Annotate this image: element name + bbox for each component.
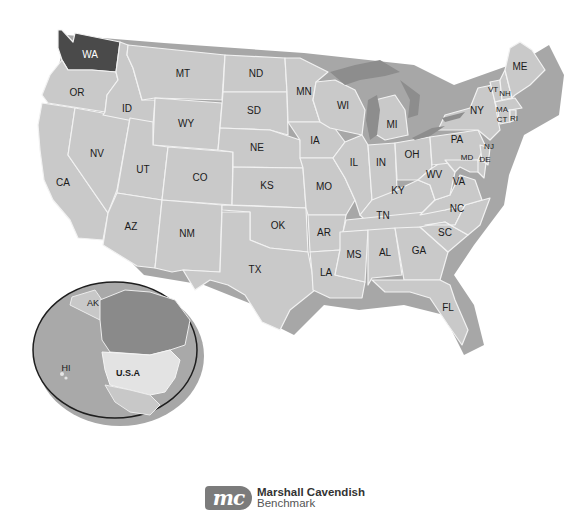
label-ms: MS	[347, 249, 362, 260]
publisher-logo: mc Marshall Cavendish Benchmark	[205, 484, 365, 512]
label-de: DE	[479, 155, 490, 164]
label-wi: WI	[337, 100, 349, 111]
label-ia: IA	[310, 135, 320, 146]
label-vt: VT	[488, 85, 498, 94]
label-nd: ND	[249, 68, 263, 79]
label-ne: NE	[250, 142, 264, 153]
label-wa: WA	[82, 49, 98, 60]
label-wv: WV	[426, 169, 442, 180]
label-sc: SC	[438, 227, 452, 238]
label-ct: CT	[497, 115, 508, 124]
label-ga: GA	[412, 245, 427, 256]
label-mn: MN	[296, 86, 312, 97]
label-me: ME	[513, 61, 528, 72]
globe-hawaii-island	[64, 376, 67, 379]
label-ny: NY	[470, 105, 484, 116]
label-il: IL	[350, 157, 359, 168]
label-tx: TX	[249, 264, 262, 275]
label-nc: NC	[450, 203, 464, 214]
label-ri: RI	[510, 114, 518, 123]
label-tn: TN	[376, 210, 389, 221]
label-mi: MI	[386, 119, 397, 130]
inset-globe: AK HI U.S.A	[33, 282, 204, 426]
label-sd: SD	[247, 105, 261, 116]
label-va: VA	[453, 176, 466, 187]
label-mt: MT	[176, 68, 190, 79]
label-ar: AR	[317, 227, 331, 238]
label-or: OR	[70, 87, 85, 98]
label-ak: AK	[87, 298, 99, 308]
publisher-name-line2: Benchmark	[257, 498, 365, 509]
us-map: WA OR CA ID NV MT WY UT AZ CO NM ND SD N…	[0, 0, 571, 513]
publisher-name: Marshall Cavendish Benchmark	[257, 487, 365, 509]
label-ks: KS	[260, 180, 274, 191]
label-ky: KY	[391, 185, 405, 196]
label-nm: NM	[179, 228, 195, 239]
label-wy: WY	[178, 118, 194, 129]
publisher-mark: mc	[205, 486, 252, 510]
label-in: IN	[376, 157, 386, 168]
label-az: AZ	[125, 221, 138, 232]
label-md: MD	[461, 153, 474, 162]
label-la: LA	[320, 267, 333, 278]
label-ok: OK	[271, 220, 286, 231]
label-nj: NJ	[484, 142, 494, 151]
label-al: AL	[379, 247, 392, 258]
label-ca: CA	[56, 177, 70, 188]
label-pa: PA	[451, 134, 464, 145]
label-id: ID	[122, 103, 132, 114]
label-nv: NV	[90, 148, 104, 159]
label-mo: MO	[316, 181, 332, 192]
label-ut: UT	[136, 164, 149, 175]
label-oh: OH	[405, 149, 420, 160]
label-usa: U.S.A	[116, 368, 141, 378]
label-fl: FL	[442, 302, 454, 313]
globe-canada	[100, 290, 190, 355]
label-nh: NH	[499, 89, 511, 98]
label-hi: HI	[62, 363, 71, 373]
label-ma: MA	[496, 105, 509, 114]
label-co: CO	[193, 172, 208, 183]
